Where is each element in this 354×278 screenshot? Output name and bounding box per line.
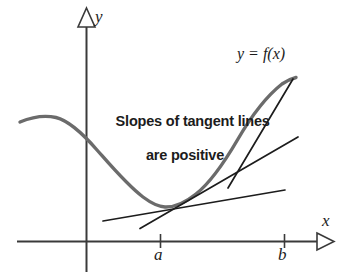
tangent-slope-figure: y x a b y = f(x) Slopes of tangent lines… bbox=[0, 0, 354, 278]
y-axis-arrowhead-icon bbox=[78, 8, 95, 27]
tick-label-a: a bbox=[154, 246, 163, 264]
annotation-line-1: Slopes of tangent lines bbox=[116, 113, 270, 129]
tick-label-b: b bbox=[278, 246, 287, 264]
annotation-line-2: are positive bbox=[100, 147, 270, 164]
x-axis-label: x bbox=[322, 212, 330, 230]
y-axis-label: y bbox=[95, 8, 103, 26]
x-axis-arrowhead-icon bbox=[317, 233, 334, 250]
slope-annotation: Slopes of tangent lines are positive bbox=[100, 96, 270, 199]
curve-equation-label: y = f(x) bbox=[237, 46, 285, 63]
